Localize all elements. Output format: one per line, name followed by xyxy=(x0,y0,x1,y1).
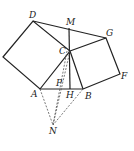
label-N: N xyxy=(48,126,58,136)
label-F: F xyxy=(120,71,128,81)
square-BCGF xyxy=(70,38,120,89)
label-P: P xyxy=(55,78,63,88)
label-C: C xyxy=(59,46,66,56)
segment-AN xyxy=(40,89,53,125)
label-M: M xyxy=(65,17,76,27)
label-H: H xyxy=(65,90,74,100)
geometry-figure: D M G C F A P H B N xyxy=(0,0,134,151)
segment-PN xyxy=(53,51,67,125)
label-B: B xyxy=(84,91,92,101)
label-G: G xyxy=(106,28,113,38)
label-D: D xyxy=(28,10,36,20)
segment-MH xyxy=(69,28,70,89)
label-A: A xyxy=(30,89,38,99)
